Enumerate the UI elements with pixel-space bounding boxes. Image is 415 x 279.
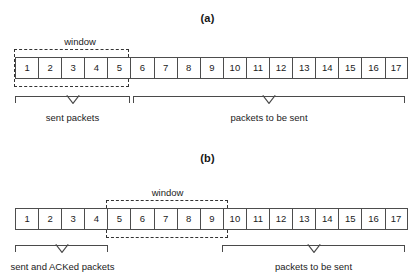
brace-tick-right (404, 245, 405, 252)
packet-cell[interactable]: 12 (269, 208, 292, 230)
packet-cell[interactable]: 11 (246, 208, 269, 230)
packet-cell[interactable]: 3 (61, 57, 84, 79)
panel-a-window-label: window (30, 36, 130, 47)
packet-cell[interactable]: 13 (292, 208, 315, 230)
packet-cell[interactable]: 11 (246, 57, 269, 79)
packet-cell[interactable]: 10 (223, 57, 246, 79)
panel-a-brace-label-sent-packets: sent packets (15, 112, 130, 123)
packet-cell[interactable]: 9 (200, 57, 223, 79)
packet-cell[interactable]: 7 (154, 57, 177, 79)
packet-cell[interactable]: 5 (107, 208, 130, 230)
panel-b-brace-label-sent-acked: sent and ACKed packets (0, 261, 125, 272)
panel-b-brace-sent-acked (15, 245, 108, 258)
packet-cell[interactable]: 9 (200, 208, 223, 230)
brace-tick-right (404, 96, 405, 103)
packet-cell[interactable]: 6 (130, 208, 153, 230)
panel-b-caption: (b) (0, 152, 415, 164)
packet-cell[interactable]: 10 (223, 208, 246, 230)
packet-cell[interactable]: 15 (338, 57, 361, 79)
brace-tick-left (133, 96, 134, 103)
packet-cell[interactable]: 15 (338, 208, 361, 230)
panel-b-brace-packets-to-be-sent (222, 245, 405, 258)
brace-tick-left (15, 245, 16, 252)
panel-a-brace-packets-to-be-sent (133, 96, 405, 109)
packet-cell[interactable]: 16 (361, 57, 384, 79)
brace-vee-icon (263, 95, 276, 104)
panel-b-packet-row: 1 2 3 4 5 6 7 8 9 10 11 12 13 14 15 16 1… (15, 208, 408, 230)
packet-cell[interactable]: 13 (292, 57, 315, 79)
packet-cell[interactable]: 1 (15, 57, 38, 79)
panel-a-brace-sent-packets (15, 96, 130, 109)
packet-cell[interactable]: 2 (38, 57, 61, 79)
brace-tick-left (222, 245, 223, 252)
packet-cell[interactable]: 4 (84, 208, 107, 230)
brace-vee-icon (55, 244, 68, 253)
packet-cell[interactable]: 5 (107, 57, 130, 79)
packet-cell[interactable]: 12 (269, 57, 292, 79)
packet-cell[interactable]: 14 (315, 57, 338, 79)
packet-cell[interactable]: 2 (38, 208, 61, 230)
packet-cell[interactable]: 7 (154, 208, 177, 230)
packet-cell[interactable]: 17 (385, 57, 408, 79)
packet-cell[interactable]: 6 (130, 57, 153, 79)
brace-tick-right (129, 96, 130, 103)
packet-cell[interactable]: 8 (177, 208, 200, 230)
brace-tick-left (15, 96, 16, 103)
panel-b-window-label: window (110, 187, 225, 198)
packet-cell[interactable]: 1 (15, 208, 38, 230)
brace-vee-icon (66, 95, 79, 104)
brace-vee-icon (307, 244, 320, 253)
panel-b-brace-label-packets-to-be-sent: packets to be sent (222, 261, 405, 272)
packet-cell[interactable]: 8 (177, 57, 200, 79)
packet-cell[interactable]: 3 (61, 208, 84, 230)
brace-tick-right (107, 245, 108, 252)
panel-a-caption: (a) (0, 12, 415, 24)
packet-cell[interactable]: 16 (361, 208, 384, 230)
packet-cell[interactable]: 14 (315, 208, 338, 230)
panel-a-packet-row: 1 2 3 4 5 6 7 8 9 10 11 12 13 14 15 16 1… (15, 57, 408, 79)
packet-cell[interactable]: 4 (84, 57, 107, 79)
packet-cell[interactable]: 17 (385, 208, 408, 230)
panel-a-brace-label-packets-to-be-sent: packets to be sent (133, 112, 405, 123)
